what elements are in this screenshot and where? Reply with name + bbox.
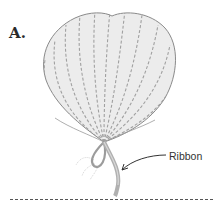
ribbon-loop — [92, 142, 105, 167]
ribbon-callout-label: Ribbon — [169, 150, 202, 162]
dashed-divider — [10, 199, 213, 200]
fiber-strands — [76, 158, 98, 180]
callout-arrow — [122, 155, 166, 170]
leaf-illustration — [0, 0, 213, 209]
